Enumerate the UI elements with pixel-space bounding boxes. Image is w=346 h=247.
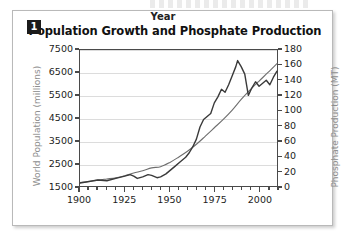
y-tick-right xyxy=(278,110,282,111)
x-tick-minor xyxy=(115,187,116,190)
y-tick-label-left: 3500 xyxy=(39,135,73,146)
x-tick-minor xyxy=(133,187,134,190)
y-tick-right xyxy=(278,64,282,65)
series-line-world-population xyxy=(80,64,277,183)
y-tick-label-right: 120 xyxy=(284,89,310,100)
y-tick-label-right: 40 xyxy=(284,150,310,161)
y-tick-right xyxy=(278,140,282,141)
series-line-phosphate-production xyxy=(80,61,277,183)
x-tick-minor xyxy=(196,187,197,190)
series-layer xyxy=(80,50,277,186)
x-tick-minor xyxy=(205,187,206,190)
x-tick-label: 2000 xyxy=(243,194,277,205)
y-tick-right xyxy=(278,156,282,157)
y-tick-right xyxy=(278,171,282,172)
y-tick-right xyxy=(278,94,282,95)
x-tick-minor xyxy=(87,187,88,190)
y-tick-left xyxy=(75,140,79,141)
y-tick-label-left: 4500 xyxy=(39,112,73,123)
y-axis-left-title: World Population (millions) xyxy=(32,56,42,196)
y-tick-label-right: 20 xyxy=(284,166,310,177)
x-tick-major xyxy=(259,187,260,192)
x-tick-minor xyxy=(151,187,152,190)
x-tick-major xyxy=(78,187,79,192)
y-tick-label-left: 6500 xyxy=(39,66,73,77)
y-tick-label-left: 1500 xyxy=(39,181,73,192)
y-tick-label-right: 0 xyxy=(284,181,310,192)
x-tick-minor xyxy=(241,187,242,190)
x-tick-label: 1950 xyxy=(152,194,186,205)
chart-title: Population Growth and Phosphate Producti… xyxy=(25,24,325,38)
scan-artifact xyxy=(150,0,310,8)
y-tick-label-left: 2500 xyxy=(39,158,73,169)
x-tick-label: 1975 xyxy=(198,194,232,205)
y-tick-left xyxy=(75,71,79,72)
figure-number-badge: 1 xyxy=(27,20,41,34)
y-tick-label-right: 160 xyxy=(284,58,310,69)
y-tick-left xyxy=(75,117,79,118)
x-tick-minor xyxy=(106,187,107,190)
x-tick-minor xyxy=(96,187,97,190)
y-tick-label-left: 5500 xyxy=(39,89,73,100)
y-tick-right xyxy=(278,48,282,49)
y-tick-right xyxy=(278,79,282,80)
x-axis-title: Year xyxy=(13,11,313,22)
y-axis-right-title: Phosphate Production (MT) xyxy=(330,57,340,197)
x-tick-minor xyxy=(223,187,224,190)
plot-area xyxy=(79,49,278,187)
x-tick-major xyxy=(214,187,215,192)
x-tick-minor xyxy=(187,187,188,190)
x-tick-minor xyxy=(232,187,233,190)
x-tick-minor xyxy=(142,187,143,190)
y-tick-label-right: 100 xyxy=(284,104,310,115)
x-tick-major xyxy=(124,187,125,192)
y-tick-label-right: 60 xyxy=(284,135,310,146)
x-tick-minor xyxy=(160,187,161,190)
y-tick-label-right: 80 xyxy=(284,120,310,131)
y-tick-left xyxy=(75,48,79,49)
x-tick-minor xyxy=(268,187,269,190)
x-tick-label: 1925 xyxy=(107,194,141,205)
x-tick-minor xyxy=(178,187,179,190)
figure-card: 1 Population Growth and Phosphate Produc… xyxy=(12,10,333,226)
y-tick-right xyxy=(278,186,282,187)
x-tick-label: 1900 xyxy=(62,194,96,205)
y-tick-left xyxy=(75,94,79,95)
x-tick-minor xyxy=(277,187,278,190)
x-tick-major xyxy=(169,187,170,192)
y-tick-label-left: 7500 xyxy=(39,43,73,54)
x-tick-minor xyxy=(250,187,251,190)
y-tick-label-right: 140 xyxy=(284,74,310,85)
y-tick-right xyxy=(278,125,282,126)
y-tick-label-right: 180 xyxy=(284,43,310,54)
y-tick-left xyxy=(75,163,79,164)
